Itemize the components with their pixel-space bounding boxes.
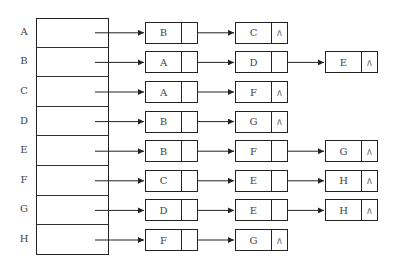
null-pointer-icon: ∧ xyxy=(362,52,377,72)
next-pointer xyxy=(182,82,197,102)
node-data: G xyxy=(236,112,272,132)
null-pointer-icon: ∧ xyxy=(272,112,287,132)
next-pointer xyxy=(182,171,197,191)
edge-node: F∧ xyxy=(235,81,288,103)
node-data: E xyxy=(236,200,272,220)
next-pointer xyxy=(182,52,197,72)
node-data: F xyxy=(236,141,272,161)
vertex-label: B xyxy=(17,55,31,66)
node-data: D xyxy=(236,52,272,72)
edge-node: A xyxy=(145,51,198,73)
next-pointer xyxy=(182,141,197,161)
edge-node: H∧ xyxy=(325,199,378,221)
edge-node: B xyxy=(145,140,198,162)
next-pointer xyxy=(272,171,287,191)
next-pointer xyxy=(272,200,287,220)
next-pointer xyxy=(182,23,197,43)
node-data: H xyxy=(326,171,362,191)
node-data: A xyxy=(146,52,182,72)
node-data: C xyxy=(236,23,272,43)
node-data: F xyxy=(146,230,182,250)
null-pointer-icon: ∧ xyxy=(272,82,287,102)
node-data: G xyxy=(326,141,362,161)
null-pointer-icon: ∧ xyxy=(362,200,377,220)
vertex-label: G xyxy=(17,203,31,214)
node-data: B xyxy=(146,112,182,132)
edge-node: G∧ xyxy=(325,140,378,162)
edge-node: F xyxy=(235,140,288,162)
edge-node: G∧ xyxy=(235,229,288,251)
edge-node: B xyxy=(145,22,198,44)
null-pointer-icon: ∧ xyxy=(362,171,377,191)
node-data: F xyxy=(236,82,272,102)
edge-node: E∧ xyxy=(325,51,378,73)
vertex-label: E xyxy=(17,144,31,155)
next-pointer xyxy=(182,200,197,220)
node-data: H xyxy=(326,200,362,220)
next-pointer xyxy=(272,52,287,72)
edge-node: C∧ xyxy=(235,22,288,44)
node-data: B xyxy=(146,23,182,43)
node-data: G xyxy=(236,230,272,250)
edge-node: E xyxy=(235,199,288,221)
edge-node: F xyxy=(145,229,198,251)
node-data: C xyxy=(146,171,182,191)
node-data: B xyxy=(146,141,182,161)
edge-node: G∧ xyxy=(235,111,288,133)
edge-node: D xyxy=(235,51,288,73)
next-pointer xyxy=(182,230,197,250)
edge-node: B xyxy=(145,111,198,133)
edge-node: H∧ xyxy=(325,170,378,192)
null-pointer-icon: ∧ xyxy=(272,230,287,250)
next-pointer xyxy=(182,112,197,132)
next-pointer xyxy=(272,141,287,161)
vertex-label: D xyxy=(17,115,31,126)
null-pointer-icon: ∧ xyxy=(362,141,377,161)
vertex-label: A xyxy=(17,26,31,37)
node-data: E xyxy=(236,171,272,191)
null-pointer-icon: ∧ xyxy=(272,23,287,43)
vertex-cell xyxy=(37,19,108,225)
vertex-label: F xyxy=(17,174,31,185)
edge-node: D xyxy=(145,199,198,221)
edge-node: A xyxy=(145,81,198,103)
vertex-label: C xyxy=(17,85,31,96)
node-data: A xyxy=(146,82,182,102)
node-data: E xyxy=(326,52,362,72)
node-data: D xyxy=(146,200,182,220)
edge-node: E xyxy=(235,170,288,192)
vertex-label: H xyxy=(17,233,31,244)
vertex-table xyxy=(36,18,109,255)
edge-node: C xyxy=(145,170,198,192)
